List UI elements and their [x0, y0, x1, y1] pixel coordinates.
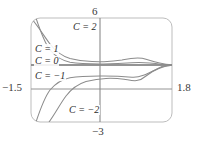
curve-label-cm1: C = −1 [34, 71, 66, 81]
axis-label-left: −1.5 [2, 82, 22, 93]
axis-label-top: 6 [92, 6, 98, 17]
curve-label-c0: C = 0 [34, 56, 59, 66]
axis-label-right: 1.8 [177, 82, 191, 93]
curve-label-c1: C = 1 [34, 44, 59, 54]
solution-curve-plot [0, 0, 201, 145]
axis-label-bottom: −3 [92, 126, 104, 137]
curve-label-cm2: C = −2 [68, 105, 100, 115]
curve-label-c2: C = 2 [72, 22, 97, 32]
